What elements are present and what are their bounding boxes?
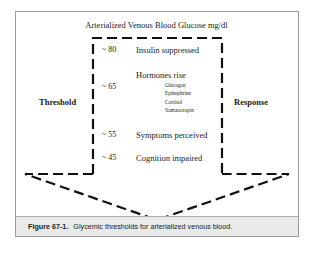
- level-label: Hormones rise: [136, 70, 186, 80]
- response-label: Response: [234, 97, 268, 107]
- level-label: Insulin suppressed: [136, 45, 199, 55]
- level-value: ~ 80: [102, 45, 116, 54]
- figure-caption: Figure 67-1. Glycemic thresholds for art…: [15, 216, 299, 237]
- level-label: Symptoms perceived: [136, 130, 208, 140]
- hormone-cortisol: Cortisol: [165, 99, 182, 106]
- level-label: Cognition impaired: [136, 153, 202, 163]
- hormone-epinephrine: Epinephrine: [165, 90, 191, 97]
- diagram-title: Arterialized Venous Blood Glucose mg/dl: [0, 20, 313, 30]
- level-value: ~ 65: [102, 82, 116, 91]
- hormone-glucagon: Glucagon: [165, 82, 186, 89]
- level-value: ~ 45: [102, 153, 116, 162]
- hormone-somatotropin: Somatotropin: [165, 107, 194, 114]
- threshold-label: Threshold: [39, 97, 76, 107]
- caption-text: Glycemic thresholds for arterialized ven…: [73, 222, 232, 231]
- figure-number: Figure 67-1.: [28, 222, 68, 231]
- level-value: ~ 55: [102, 130, 116, 139]
